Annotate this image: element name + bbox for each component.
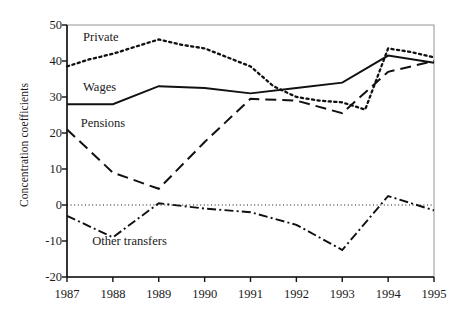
x-axis-tick-label: 1994 xyxy=(376,287,401,302)
series-annotation-wages: Wages xyxy=(83,80,116,95)
x-axis-tick-label: 1988 xyxy=(100,287,125,302)
x-axis-tick-label: 1990 xyxy=(192,287,217,302)
series-annotation-pensions: Pensions xyxy=(81,116,125,131)
plot-area xyxy=(0,0,454,315)
concentration-coefficients-chart: Concentration coefficients 50403020100-1… xyxy=(0,0,454,315)
x-axis-tick-label: 1993 xyxy=(330,287,355,302)
series-annotation-private: Private xyxy=(83,30,118,45)
x-axis-tick-label: 1992 xyxy=(284,287,309,302)
x-axis-tick-label: 1995 xyxy=(422,287,447,302)
x-axis-tick-label: 1991 xyxy=(238,287,263,302)
x-axis-tick-label: 1987 xyxy=(55,287,80,302)
series-annotation-other-transfers: Other transfers xyxy=(92,234,167,249)
x-axis-tick-label: 1989 xyxy=(146,287,171,302)
